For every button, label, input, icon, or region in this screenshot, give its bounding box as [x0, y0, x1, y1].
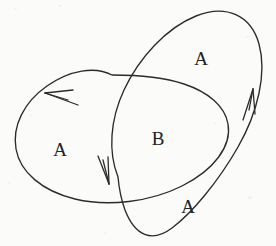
arrowhead-bottom — [98, 156, 109, 184]
diagram-canvas — [0, 0, 276, 246]
region-label-a-bottom: A — [181, 197, 195, 216]
left-ellipse-curve — [15, 70, 228, 202]
arrowhead-left — [45, 90, 78, 105]
region-label-b-center: B — [152, 129, 165, 148]
region-label-a-top: A — [194, 49, 208, 68]
region-label-a-left: A — [53, 140, 67, 159]
figure-root: A A B A — [0, 0, 276, 246]
